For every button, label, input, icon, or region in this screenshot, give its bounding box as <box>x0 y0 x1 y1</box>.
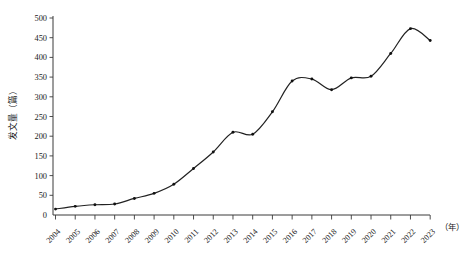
xtick-label: 2005 <box>64 227 82 245</box>
ytick-label: 450 <box>34 34 47 43</box>
y-axis-title-text: 发文量（篇） <box>7 86 18 140</box>
x-axis-unit-label: （年） <box>440 222 464 232</box>
y-axis-tick-labels: 500 450 400 350 300 250 200 150 100 50 0 <box>34 14 47 220</box>
ytick-label: 50 <box>39 191 47 200</box>
data-point <box>330 88 333 91</box>
data-point <box>54 208 57 211</box>
data-point <box>74 205 77 208</box>
xtick-label: 2016 <box>281 227 299 245</box>
data-point <box>212 151 215 154</box>
xtick-label: 2023 <box>419 227 437 245</box>
data-point <box>251 133 254 136</box>
xtick-label: 2020 <box>360 227 378 245</box>
ytick-label: 400 <box>34 53 47 62</box>
y-axis-ticks <box>50 18 54 195</box>
series-markers <box>54 27 432 210</box>
data-point <box>113 203 116 206</box>
data-point <box>271 110 274 113</box>
series-line <box>56 28 431 209</box>
ytick-label: 250 <box>34 113 47 122</box>
xtick-label: 2004 <box>44 227 62 245</box>
ytick-label: 500 <box>34 14 47 23</box>
data-point <box>429 39 432 42</box>
xtick-label: 2014 <box>242 227 260 245</box>
data-point <box>409 27 412 30</box>
figure-caption <box>0 248 474 259</box>
xtick-label: 2021 <box>380 227 398 245</box>
xtick-label: 2022 <box>399 227 417 245</box>
data-point <box>153 192 156 195</box>
ytick-label: 350 <box>34 73 47 82</box>
ytick-label: 300 <box>34 93 47 102</box>
xtick-label: 2013 <box>222 227 240 245</box>
data-point <box>310 78 313 81</box>
xtick-label: 2012 <box>202 227 220 245</box>
xtick-label: 2015 <box>261 227 279 245</box>
ytick-label: 200 <box>34 132 47 141</box>
data-point <box>370 75 373 78</box>
xtick-label: 2007 <box>104 227 122 245</box>
data-point <box>291 80 294 83</box>
data-point <box>350 76 353 79</box>
line-chart: 500 450 400 350 300 250 200 150 100 50 0… <box>0 0 474 259</box>
xtick-label: 2017 <box>301 227 319 245</box>
xtick-label: 2018 <box>321 227 339 245</box>
xtick-label: 2009 <box>143 227 161 245</box>
data-point <box>232 131 235 134</box>
xtick-label: 2019 <box>340 227 358 245</box>
y-axis-title: 发文量（篇） <box>7 86 18 140</box>
data-point <box>172 183 175 186</box>
xtick-label: 2011 <box>183 227 201 245</box>
data-point <box>93 203 96 206</box>
ytick-label: 150 <box>34 152 47 161</box>
xtick-label: 2008 <box>123 227 141 245</box>
xtick-label: 2006 <box>84 227 102 245</box>
data-point <box>389 52 392 55</box>
x-axis-ticks <box>56 215 431 220</box>
x-axis-tick-labels: 2004200520062007200820092010201120122013… <box>44 227 437 245</box>
ytick-label: 100 <box>34 172 47 181</box>
data-point <box>192 167 195 170</box>
data-point <box>133 197 136 200</box>
ytick-label: 0 <box>43 211 47 220</box>
xtick-label: 2010 <box>163 227 181 245</box>
